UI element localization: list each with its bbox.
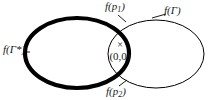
leader-line-p1 — [118, 15, 126, 22]
label-f-p1: f(p1) — [105, 1, 125, 14]
label-f-p2: f(p2) — [106, 86, 126, 99]
label-f-gamma: f(Γ) — [164, 5, 181, 16]
label-f-gamma-star: f(Γ*) — [3, 44, 25, 55]
label-f-p1-close: ) — [121, 0, 125, 12]
label-f-p2-base: f(p — [106, 85, 118, 97]
label-f-gamma-star-text: f(Γ*) — [3, 43, 25, 55]
origin-coordinates-label: (0,0) — [103, 50, 137, 62]
origin-cross-icon: × — [113, 39, 127, 50]
label-f-p2-close: ) — [122, 85, 126, 97]
label-f-gamma-text: f(Γ) — [164, 4, 181, 16]
label-f-p1-base: f(p — [105, 0, 117, 12]
venn-diagram-figure: f(Γ*) f(Γ) f(p1) f(p2) × (0,0) — [0, 0, 211, 100]
